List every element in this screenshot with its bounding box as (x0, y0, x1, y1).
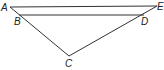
label-b: B (14, 16, 21, 27)
label-d: D (141, 16, 148, 27)
label-e: E (157, 1, 164, 12)
segment-ae (10, 6, 157, 7)
label-c: C (65, 58, 73, 69)
label-a: A (0, 2, 8, 13)
segment-ce (69, 6, 157, 56)
triangle-diagram: A E B D C (0, 0, 164, 70)
segment-ac (10, 7, 69, 56)
